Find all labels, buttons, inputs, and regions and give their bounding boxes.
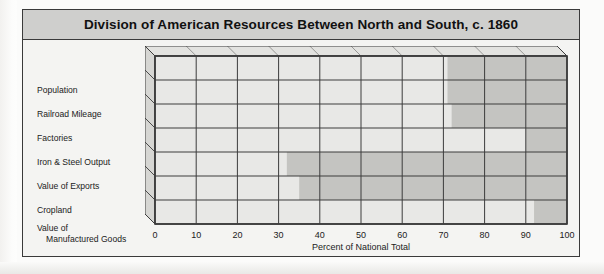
category-label-line2: Manufactured Goods [37,234,159,245]
scan-edge-left [0,0,17,274]
x-axis-tick-label: 60 [397,230,407,240]
category-label-line1: Iron & Steel Output [37,157,110,167]
x-axis-tick-label: 50 [356,230,366,240]
scan-edge-bottom [0,262,604,274]
category-label: Iron & Steel Output [37,157,159,168]
bar-segment-south [448,80,567,104]
category-label-list: PopulationRailroad MileageFactoriesIron … [37,62,159,234]
chart-plot-3d [145,46,577,234]
x-axis-tick-label: 70 [438,230,448,240]
category-label-line1: Value of [37,223,68,233]
category-label-line1: Factories [37,133,72,143]
x-axis-tick-label: 80 [480,230,490,240]
category-label: Cropland [37,205,159,216]
category-label: Railroad Mileage [37,109,159,120]
x-axis-title: Percent of National Total [145,242,577,252]
category-label-line1: Population [37,85,78,95]
x-axis-tick-label: 0 [152,230,157,240]
chart-left-face [145,46,155,224]
bar-segment-south [526,128,567,152]
category-label: Value of Exports [37,181,159,192]
plot-area: PopulationRailroad MileageFactoriesIron … [23,40,579,256]
chart-title-bar: Division of American Resources Between N… [23,10,579,40]
category-label-line1: Railroad Mileage [37,109,102,119]
x-axis-tick-label: 90 [521,230,531,240]
bar-segment-south [287,152,567,176]
bar-segment-south [452,104,567,128]
x-axis-tick-label: 100 [559,230,574,240]
category-label-line1: Value of Exports [37,181,99,191]
chart-title: Division of American Resources Between N… [84,17,518,32]
chart-figure: Division of American Resources Between N… [22,9,580,257]
x-axis-tick-label: 20 [232,230,242,240]
category-label-line1: Cropland [37,205,72,215]
bar-segment-south [299,176,567,200]
category-label: Value ofManufactured Goods [37,223,159,244]
bar-segment-south [448,56,567,80]
category-label: Factories [37,133,159,144]
category-label: Population [37,85,159,96]
x-axis-tick-label: 30 [274,230,284,240]
scanned-page: Division of American Resources Between N… [0,0,604,274]
x-axis-tick-label: 40 [315,230,325,240]
x-axis: Percent of National Total 01020304050607… [145,216,577,256]
chart-svg [145,46,577,234]
x-axis-tick-label: 10 [191,230,201,240]
